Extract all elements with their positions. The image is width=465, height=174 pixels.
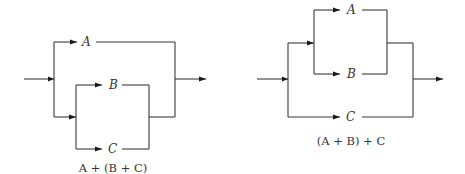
left-lower-arrow-icon [69, 115, 76, 120]
left-b-arrow-icon [95, 83, 102, 88]
right-label-b: B [346, 67, 356, 81]
left-label-c: C [108, 142, 117, 156]
right-input-arrow-icon [282, 77, 288, 82]
right-c-arrow-icon [333, 115, 340, 120]
right-output-arrow-icon [436, 77, 443, 82]
right-label-a: A [346, 3, 356, 17]
left-c-arrow-icon [95, 147, 102, 152]
right-a-arrow-icon [333, 8, 340, 13]
right-caption: (A + B) + C [317, 134, 386, 148]
left-label-b: B [108, 78, 118, 92]
parallel-diagrams-canvas: A B C A + (B + C) [0, 0, 465, 174]
diagram-left: A B C A + (B + C) [24, 35, 206, 174]
right-b-arrow-icon [333, 72, 340, 77]
right-upper-arrow-icon [307, 41, 314, 46]
left-input-arrow-icon [48, 77, 54, 82]
diagram-right: A B C (A + B) + C [257, 3, 443, 148]
left-a-arrow-icon [70, 40, 77, 45]
left-label-a: A [81, 35, 91, 49]
left-output-arrow-icon [199, 77, 206, 82]
right-label-c: C [346, 110, 355, 124]
left-caption: A + (B + C) [78, 161, 147, 174]
